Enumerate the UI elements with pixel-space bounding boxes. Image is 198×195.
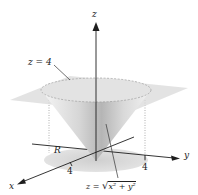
z-axis-label: z	[92, 10, 97, 19]
diagram-canvas	[0, 0, 198, 195]
y-axis-arrow-icon	[171, 156, 180, 161]
z-axis-arrow-icon	[93, 22, 100, 31]
y-axis-label: y	[184, 151, 189, 160]
x-axis-label: x	[9, 182, 14, 191]
cone-equation-prefix: z =	[86, 182, 102, 191]
y-tick-4: 4	[142, 163, 148, 172]
plane-label: z = 4	[28, 58, 52, 67]
cone-equation-radicand: x² + y²	[108, 181, 135, 191]
cone-diagram: z y x 4 4 R z = 4 z = √x² + y²	[0, 0, 198, 195]
region-r-label: R	[54, 146, 61, 155]
x-tick-4: 4	[67, 167, 73, 176]
x-axis-arrow-icon	[17, 179, 26, 185]
cone-equation-label: z = √x² + y²	[86, 181, 136, 191]
